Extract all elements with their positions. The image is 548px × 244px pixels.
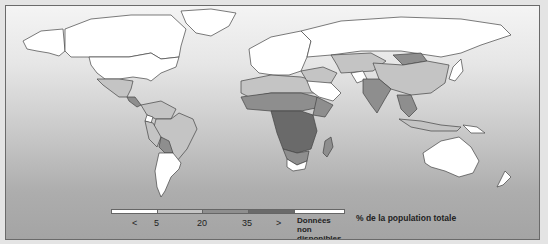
legend-swatch-5-20: [157, 209, 203, 214]
region-canada: [65, 15, 186, 59]
region-southeast-asia: [397, 95, 417, 117]
region-mexico: [97, 79, 133, 97]
legend-no-data-line2: non disponibles: [297, 225, 341, 240]
region-central-africa: [271, 111, 317, 153]
legend-no-data-label: Données non disponibles: [297, 216, 341, 240]
region-indonesia: [399, 119, 461, 131]
region-new-zealand: [497, 171, 511, 187]
legend-swatch-gt35: [248, 209, 295, 214]
region-greenland: [181, 9, 236, 36]
legend-tick-35: 35: [242, 218, 252, 228]
region-japan: [449, 59, 463, 81]
region-australia: [423, 137, 479, 177]
region-alaska: [23, 29, 65, 56]
region-europe: [249, 31, 311, 75]
region-central-america: [127, 97, 141, 107]
legend-title: % de la population totale: [356, 213, 456, 223]
region-madagascar: [323, 137, 333, 157]
legend-no-data-line1: Données: [297, 216, 341, 225]
region-russia: [301, 17, 511, 57]
map-frame: < 5 20 35 > Données non disponibles % de…: [5, 5, 540, 240]
legend-tick-20: 20: [197, 218, 207, 228]
legend-swatch-lt5: [111, 209, 158, 214]
legend-tick-5: 5: [154, 218, 159, 228]
legend-swatch-no-data: [294, 209, 345, 214]
region-new-guinea: [463, 125, 485, 133]
world-map: [6, 6, 540, 240]
region-argentina-chile: [155, 153, 181, 197]
region-sahel: [241, 93, 321, 111]
legend-tick-gt: >: [276, 218, 281, 228]
legend-tick-lt: <: [132, 218, 137, 228]
legend-swatch-20-35: [202, 209, 249, 214]
